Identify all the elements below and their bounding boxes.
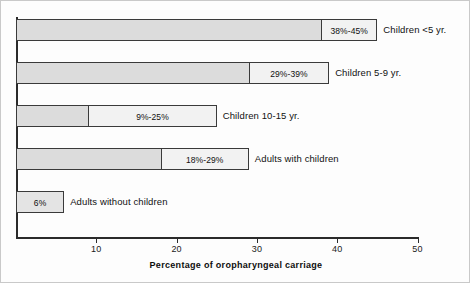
- bar-segment-low: [16, 105, 88, 127]
- bar-range-label: 38%-45%: [322, 20, 376, 42]
- chart-figure: 1020304050 38%-45%Children <5 yr.29%-39%…: [0, 0, 470, 283]
- x-tick-20: [177, 237, 178, 243]
- x-tick-30: [257, 237, 258, 243]
- bar-segment-low: [16, 19, 321, 41]
- x-tick-label-50: 50: [412, 244, 422, 254]
- bar-category-label: Children 10-15 yr.: [223, 105, 300, 127]
- x-tick-label-30: 30: [252, 244, 262, 254]
- bar-row: 6%Adults without children: [16, 191, 64, 213]
- x-axis-line: [16, 237, 418, 239]
- bar-segment-low: [16, 148, 161, 170]
- bar-row: 38%-45%Children <5 yr.: [16, 19, 377, 41]
- x-tick-label-20: 20: [171, 244, 181, 254]
- x-tick-10: [96, 237, 97, 243]
- bar-range-label: 9%-25%: [89, 106, 215, 128]
- x-tick-40: [337, 237, 338, 243]
- x-tick-50: [418, 237, 419, 243]
- bar-row: 29%-39%Children 5-9 yr.: [16, 62, 329, 84]
- plot-area: 1020304050 38%-45%Children <5 yr.29%-39%…: [1, 1, 470, 283]
- bar-segment-low: [16, 62, 249, 84]
- bar-range-label: 6%: [17, 192, 63, 214]
- bar-row: 9%-25%Children 10-15 yr.: [16, 105, 217, 127]
- bar-category-label: Children 5-9 yr.: [335, 62, 401, 84]
- bar-segment-value: 6%: [16, 191, 64, 213]
- bar-category-label: Adults without children: [70, 191, 167, 213]
- bar-segment-high: 18%-29%: [161, 148, 249, 170]
- bar-category-label: Adults with children: [255, 148, 339, 170]
- bar-range-label: 29%-39%: [250, 63, 328, 85]
- x-axis-title: Percentage of oropharyngeal carriage: [1, 260, 470, 270]
- bar-segment-high: 29%-39%: [249, 62, 329, 84]
- x-tick-label-40: 40: [332, 244, 342, 254]
- bar-row: 18%-29%Adults with children: [16, 148, 249, 170]
- bar-category-label: Children <5 yr.: [383, 19, 446, 41]
- bar-segment-high: 38%-45%: [321, 19, 377, 41]
- x-tick-label-10: 10: [91, 244, 101, 254]
- bar-segment-high: 9%-25%: [88, 105, 216, 127]
- bar-range-label: 18%-29%: [162, 149, 248, 171]
